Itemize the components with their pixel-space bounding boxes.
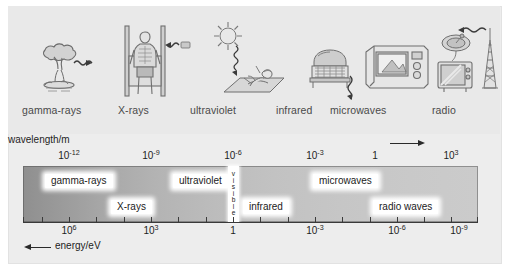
energy-tick	[315, 217, 316, 222]
energy-tick	[42, 217, 43, 222]
energy-tick-label-1: 106	[61, 225, 76, 236]
wavelength-tick-label-2: 10-9	[142, 150, 160, 161]
wavelength-tick-label-6: 103	[443, 150, 458, 161]
wavelength-axis-caption: wavelength/m	[8, 134, 70, 145]
energy-tick-label-5: 10-6	[388, 225, 406, 236]
energy-tick-label-2: 103	[143, 225, 158, 236]
energy-tick	[342, 217, 343, 222]
band-label-ultraviolet: ultraviolet	[173, 174, 228, 188]
energy-tick	[288, 217, 289, 222]
wavelength-arrow-head	[418, 140, 425, 146]
illustration-label-ultraviolet: ultraviolet	[190, 104, 236, 116]
energy-tick	[233, 217, 234, 222]
spectrum-band: gamma-rays ultraviolet microwaves X-rays…	[23, 166, 478, 222]
wavelength-tick-exp-4: -3	[317, 148, 323, 157]
wavelength-tick-label-1: 10-12	[58, 150, 80, 161]
energy-tick-label-6: 10-9	[450, 225, 468, 236]
wavelength-arrow-line	[390, 143, 418, 144]
sun-sunbather-icon	[204, 20, 294, 104]
energy-tick	[124, 217, 125, 222]
tv-antenna-icon	[432, 18, 504, 104]
illustration-label-radio: radio	[432, 104, 456, 116]
energy-tick	[206, 217, 207, 222]
wavelength-tick-exp-3: -6	[235, 148, 241, 157]
wavelength-tick-label-4: 10-3	[306, 150, 324, 161]
band-label-microwaves: microwaves	[313, 174, 378, 188]
illustration-label-x-rays: X-rays	[118, 104, 149, 116]
band-label-infrared: infrared	[243, 200, 289, 214]
energy-tick-exp-5: -6	[399, 223, 405, 232]
illustration-strip: gamma-rays X-rays ultraviolet infrared m…	[8, 6, 500, 134]
energy-tick	[178, 217, 179, 222]
wavelength-tick-exp-1: -12	[69, 148, 79, 157]
energy-tick	[370, 217, 371, 222]
energy-tick	[451, 217, 452, 222]
energy-tick-exp-2: 3	[155, 223, 159, 232]
energy-axis-line	[23, 222, 478, 223]
energy-tick-exp-1: 6	[73, 223, 77, 232]
energy-tick-label-3: 1	[230, 225, 236, 236]
energy-arrow-head	[24, 244, 31, 250]
band-label-radio-waves: radio waves	[373, 200, 438, 214]
xray-machine-icon	[113, 20, 193, 104]
wavelength-tick-label-3: 10-6	[224, 150, 242, 161]
illustration-label-infrared: infrared	[276, 104, 312, 116]
energy-tick	[96, 217, 97, 222]
energy-tick	[69, 217, 70, 222]
wavelength-tick-exp-2: -9	[153, 148, 159, 157]
band-label-gamma-rays: gamma-rays	[45, 174, 113, 188]
illustration-label-gamma-rays: gamma-rays	[22, 104, 81, 116]
band-label-x-rays: X-rays	[111, 200, 152, 214]
figure-root: gamma-rays X-rays ultraviolet infrared m…	[0, 0, 508, 268]
microwave-oven-icon	[360, 38, 432, 98]
energy-tick-label-4: 10-3	[306, 225, 324, 236]
energy-tick	[477, 217, 478, 222]
illustration-label-microwaves: microwaves	[330, 104, 386, 116]
energy-tick	[424, 217, 425, 222]
energy-tick	[260, 217, 261, 222]
energy-tick-exp-6: -9	[461, 223, 467, 232]
energy-tick-exp-4: -3	[317, 223, 323, 232]
energy-axis-caption: energy/eV	[55, 240, 101, 251]
spectrum-chart: wavelength/m 10-12 10-9 10-6 10-3 1 103	[8, 134, 500, 262]
wavelength-tick-exp-6: 3	[455, 148, 459, 157]
nuclear-explosion-icon	[28, 36, 98, 102]
energy-tick	[151, 217, 152, 222]
energy-tick	[23, 217, 24, 222]
energy-tick	[397, 217, 398, 222]
energy-arrow-line	[31, 247, 51, 248]
band-label-visible: v i s i b l e	[228, 166, 239, 222]
wavelength-tick-label-5: 1	[372, 150, 378, 161]
